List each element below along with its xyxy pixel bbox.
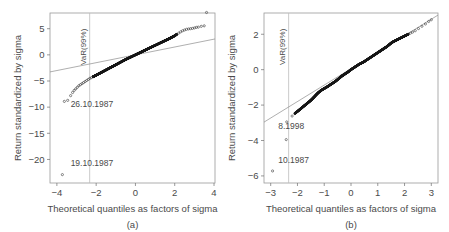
x-tick-label: −4 [51, 187, 62, 198]
x-tick-label: −1 [319, 187, 330, 198]
var-line-label: VaR(99%) [79, 28, 88, 65]
outlier-label-1: 8.1998 [278, 121, 304, 131]
x-tick-label: 4 [211, 187, 216, 198]
y-tick-label: −10 [28, 101, 44, 112]
var-line-label: VaR(99%) [278, 28, 287, 65]
x-tick-label: 2 [172, 187, 177, 198]
data-point [61, 174, 63, 176]
x-tick-label: −2 [91, 187, 102, 198]
y-tick-label: −15 [28, 128, 44, 139]
outlier-label-2: 10.1987 [278, 155, 309, 165]
x-axis-title: Theoretical quantiles as factors of sigm… [266, 203, 437, 214]
data-point [63, 100, 65, 102]
panel-caption: (b) [345, 219, 357, 230]
y-tick-label: −2 [248, 99, 259, 110]
data-point [71, 91, 73, 93]
data-point [417, 27, 419, 29]
data-point [414, 30, 416, 32]
x-tick-label: −3 [265, 187, 276, 198]
y-tick-label: 2 [253, 29, 258, 40]
x-tick-label: 3 [429, 187, 434, 198]
y-tick-label: 0 [39, 49, 44, 60]
data-point [407, 33, 409, 35]
qq-plot-panel-b: VaR(99%)−3−2−1012320−2−4−68.199810.1987T… [224, 0, 449, 232]
data-point [203, 25, 205, 27]
x-tick-label: 0 [348, 187, 353, 198]
x-axis-title: Theoretical quantiles as factors of sigm… [47, 203, 218, 214]
data-point [421, 25, 423, 27]
panel-caption: (a) [127, 219, 139, 230]
data-points-dense [294, 33, 410, 115]
outlier-label-1: 26.10.1987 [71, 99, 114, 109]
data-point [291, 115, 293, 117]
y-axis-title: Return standardized by sigma [12, 34, 23, 161]
y-tick-label: −6 [248, 170, 259, 181]
qq-plot-panel-a: VaR(99%)−4−202450−5−10−15−2026.10.198719… [0, 0, 225, 232]
panel-a-svg: VaR(99%)−4−202450−5−10−15−2026.10.198719… [0, 0, 225, 232]
x-tick-label: −2 [292, 187, 303, 198]
panel-b-svg: VaR(99%)−3−2−1012320−2−4−68.199810.1987T… [224, 0, 449, 232]
x-tick-label: 2 [402, 187, 407, 198]
data-point [67, 99, 69, 101]
y-tick-label: 0 [253, 64, 258, 75]
data-point [411, 31, 413, 33]
data-point [271, 170, 273, 172]
y-tick-label: −4 [248, 135, 259, 146]
data-points-dense [92, 33, 178, 78]
data-point [285, 139, 287, 141]
outlier-label-2: 19.10.1987 [71, 158, 114, 168]
data-point [200, 25, 202, 27]
y-tick-label: 5 [39, 23, 44, 34]
y-tick-label: −20 [28, 154, 44, 165]
y-axis-title: Return standardized by sigma [226, 34, 237, 161]
y-tick-label: −5 [34, 75, 45, 86]
data-point [70, 95, 72, 97]
x-tick-label: 1 [375, 187, 380, 198]
x-tick-label: 0 [133, 187, 138, 198]
data-point [175, 33, 177, 35]
data-points [271, 19, 432, 172]
